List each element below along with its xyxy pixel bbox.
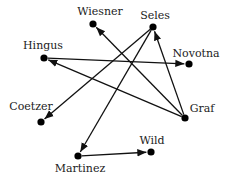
node-hingus — [40, 54, 47, 61]
node-label-seles: Seles — [140, 9, 170, 22]
node-label-graf: Graf — [190, 102, 216, 115]
node-coetzer — [37, 118, 44, 125]
node-label-martinez: Martinez — [55, 162, 106, 175]
node-label-wiesner: Wiesner — [77, 5, 123, 18]
node-label-novotna: Novotna — [172, 47, 220, 60]
node-graf — [181, 114, 188, 121]
directed-graph: Wiesner Seles Hingus Novotna Coetzer Gra… — [0, 0, 229, 176]
node-martinez — [74, 152, 81, 159]
node-wiesner — [89, 20, 96, 27]
node-label-hingus: Hingus — [23, 39, 63, 52]
edge-graf-to-hingus — [48, 60, 181, 117]
edge-martinez-to-wild — [82, 152, 147, 156]
node-label-wild: Wild — [139, 134, 164, 147]
node-novotna — [185, 60, 192, 67]
node-wild — [147, 148, 154, 155]
node-label-coetzer: Coetzer — [9, 100, 53, 113]
labels-layer: Wiesner Seles Hingus Novotna Coetzer Gra… — [9, 5, 220, 175]
node-seles — [149, 23, 156, 30]
